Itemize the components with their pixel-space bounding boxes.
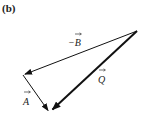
svg-text:−B: −B — [68, 37, 81, 48]
label-a: A — [22, 91, 31, 107]
label-q: Q — [98, 69, 106, 85]
vector-neg-b — [25, 31, 137, 74]
label-neg-b: −B — [68, 33, 82, 48]
svg-text:A: A — [22, 96, 30, 107]
vector-diagram: (b) −B Q A — [0, 0, 152, 124]
panel-label: (b) — [2, 2, 16, 15]
svg-text:Q: Q — [98, 74, 106, 85]
vector-q — [53, 31, 138, 110]
